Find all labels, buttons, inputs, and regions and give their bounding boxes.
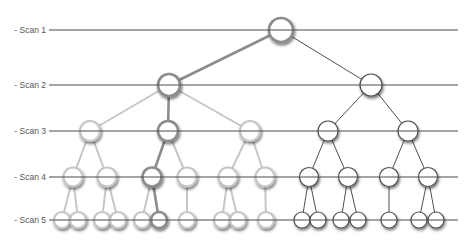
scan-1-label: - Scan 1 (0, 25, 46, 35)
scan-3-label: - Scan 3 (0, 126, 46, 136)
scan-2-label: - Scan 2 (0, 80, 46, 90)
tree-edge (169, 85, 250, 131)
tree-edge (90, 85, 169, 131)
tree-edge (169, 30, 281, 85)
tree-diagram (0, 0, 474, 248)
scan-4-label: - Scan 4 (0, 172, 46, 182)
scan-5-label: - Scan 5 (0, 215, 46, 225)
tree-edge (281, 30, 371, 85)
